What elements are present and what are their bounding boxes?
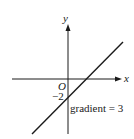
x-axis-label: x [123,72,129,84]
graph-line [32,42,123,134]
gradient-annotation: gradient = 3 [70,102,124,114]
y-axis-label: y [62,12,68,24]
line-graph: y x O −2 gradient = 3 [0,0,134,139]
y-intercept-label: −2 [52,90,64,102]
y-axis-arrow-icon [66,24,71,31]
x-axis-arrow-icon [115,77,122,82]
